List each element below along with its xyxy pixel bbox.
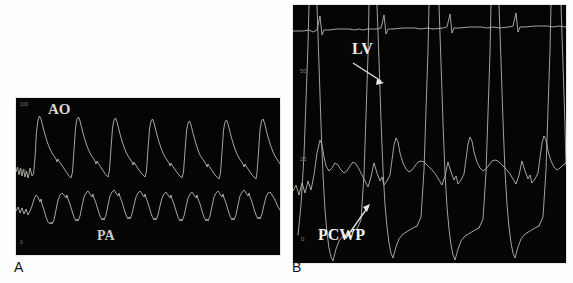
lv-waveform-1b bbox=[317, 5, 357, 261]
panel-b: LV PCWP 50 25 0 bbox=[293, 5, 566, 263]
lv-waveform-2 bbox=[357, 5, 369, 229]
lv-waveform-1 bbox=[298, 5, 309, 235]
aortic-waveform bbox=[16, 116, 280, 179]
pulmonary-artery-waveform bbox=[16, 190, 280, 224]
panel-a-traces bbox=[16, 98, 280, 255]
panel-a: AO PA 100 50 0 bbox=[16, 98, 280, 255]
lv-waveform-5b bbox=[561, 5, 566, 165]
lv-waveform-4 bbox=[479, 5, 491, 228]
lv-waveform-2b bbox=[377, 5, 417, 258]
lv-waveform-5 bbox=[539, 5, 551, 226]
panel-b-traces bbox=[293, 5, 566, 263]
panel-letter-b: B bbox=[292, 259, 302, 275]
lv-waveform-3 bbox=[417, 5, 429, 226]
lv-waveform-3b bbox=[439, 5, 479, 260]
ecg-waveform bbox=[293, 13, 566, 35]
pcwp-arrow bbox=[346, 204, 370, 238]
pcwp-waveform bbox=[293, 136, 566, 195]
lv-waveform-4b bbox=[499, 5, 539, 258]
panel-letter-a: A bbox=[14, 259, 24, 275]
pressure-tracing-figure: AO PA 100 50 0 bbox=[0, 0, 573, 283]
